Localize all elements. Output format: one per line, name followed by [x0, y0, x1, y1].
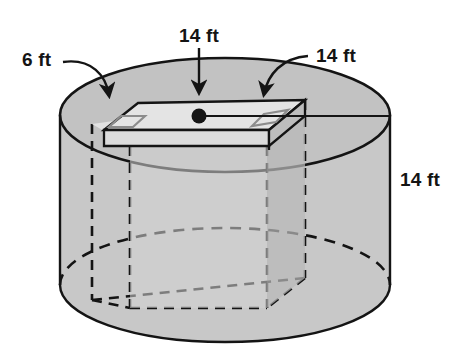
label-depth-6ft: 6 ft [22, 49, 52, 70]
label-height-14ft: 14 ft [400, 169, 441, 190]
prism-in-cylinder-svg: 6 ft 14 ft 14 ft 14 ft [0, 0, 450, 364]
prism-front-face [130, 146, 267, 308]
label-width-14ft: 14 ft [316, 45, 357, 66]
label-diameter-14ft: 14 ft [179, 25, 220, 46]
center-point-dot [192, 109, 207, 124]
prism-top-slab-front [104, 130, 269, 146]
geometry-figure: 6 ft 14 ft 14 ft 14 ft [0, 0, 450, 364]
